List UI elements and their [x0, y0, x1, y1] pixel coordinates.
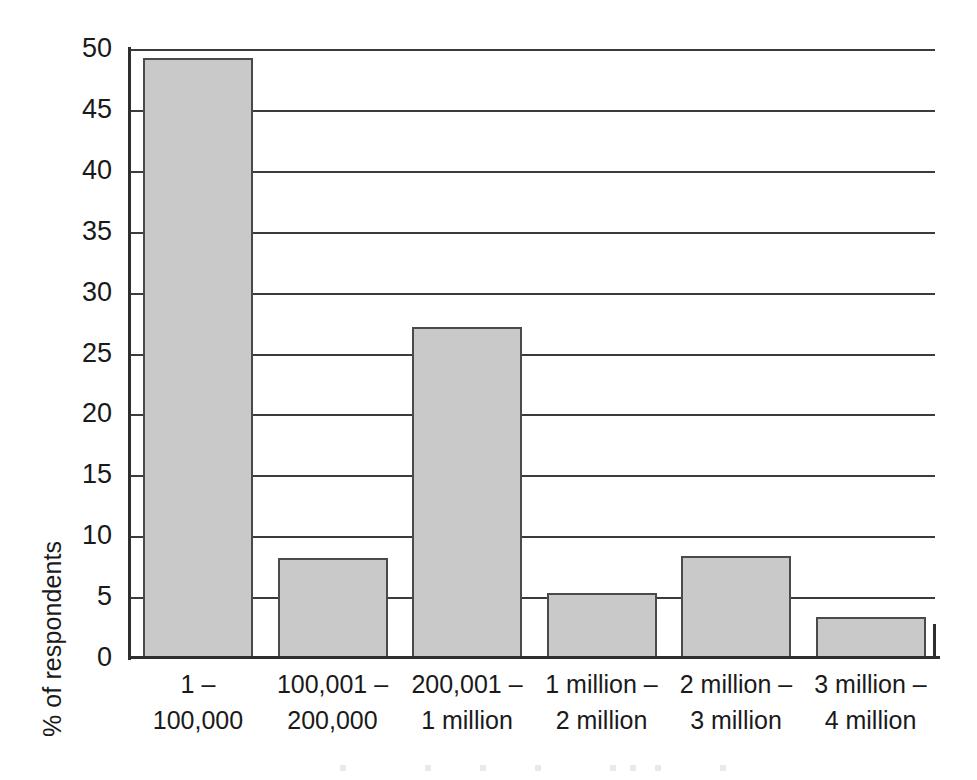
scan-speck: [610, 765, 616, 771]
y-axis-tick-label: 35: [40, 218, 112, 245]
x-axis-category-label-line2: 3 million: [669, 702, 803, 738]
x-axis-category-label-line1: 3 million –: [814, 670, 927, 698]
gridline: [128, 49, 935, 51]
x-axis-right-end-tick: [933, 624, 936, 658]
x-axis-category-label: 100,001 –200,000: [266, 666, 400, 738]
x-axis-category-label-line1: 200,001 –: [411, 670, 522, 698]
y-axis-tick-label: 40: [40, 157, 112, 184]
bar: [816, 617, 926, 658]
plot-area: [128, 49, 935, 658]
y-axis-tick-label: 30: [40, 279, 112, 306]
scan-speck: [720, 765, 726, 771]
bar: [143, 58, 253, 658]
bar: [278, 558, 388, 658]
scan-speck: [425, 765, 431, 771]
bar: [681, 556, 791, 658]
y-axis-tick-label: 20: [40, 400, 112, 427]
scan-speck: [535, 765, 541, 771]
bar: [412, 327, 522, 658]
x-axis-category-label: 1 –100,000: [131, 666, 265, 738]
x-axis-category-label-line2: 4 million: [804, 702, 938, 738]
bar-chart-figure: % of respondents 05101520253035404550 1 …: [0, 0, 977, 780]
x-axis-category-label-line2: 1 million: [400, 702, 534, 738]
x-axis-category-labels: 1 –100,000100,001 –200,000200,001 –1 mil…: [128, 666, 935, 756]
x-axis-line: [128, 656, 940, 659]
x-axis-category-label: 1 million –2 million: [535, 666, 669, 738]
x-axis-category-label: 2 million –3 million: [669, 666, 803, 738]
y-axis-tick-label: 0: [40, 644, 112, 671]
x-axis-category-label-line1: 2 million –: [680, 670, 793, 698]
x-axis-category-label-line1: 1 –: [181, 670, 216, 698]
y-axis-tick-label: 45: [40, 96, 112, 123]
bar: [547, 593, 657, 658]
y-axis-tick-label: 25: [40, 340, 112, 367]
y-axis-tick-label: 50: [40, 35, 112, 62]
scan-speck: [480, 765, 486, 771]
x-axis-category-label: 3 million –4 million: [804, 666, 938, 738]
x-axis-category-label-line1: 1 million –: [545, 670, 658, 698]
y-axis-line: [128, 47, 131, 660]
scan-artifact-speckle: [330, 762, 750, 774]
x-axis-category-label-line2: 2 million: [535, 702, 669, 738]
scan-speck: [630, 765, 636, 771]
y-axis-tick-labels: 05101520253035404550: [40, 0, 112, 780]
x-axis-category-label: 200,001 –1 million: [400, 666, 534, 738]
scan-speck: [340, 765, 346, 771]
x-axis-category-label-line2: 100,000: [131, 702, 265, 738]
y-axis-tick-label: 15: [40, 461, 112, 488]
y-axis-tick-label: 5: [40, 583, 112, 610]
x-axis-category-label-line1: 100,001 –: [277, 670, 388, 698]
y-axis-tick-label: 10: [40, 522, 112, 549]
scan-speck: [655, 765, 661, 771]
x-axis-category-label-line2: 200,000: [266, 702, 400, 738]
